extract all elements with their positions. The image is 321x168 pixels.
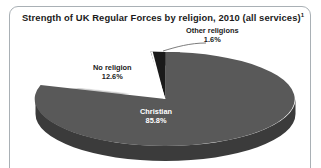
data-label-christian: Christian 85.8%	[140, 107, 172, 126]
data-label-other-religions-value: 1.6%	[186, 35, 239, 44]
pie-chart	[0, 0, 321, 168]
data-label-no-religion-name: No religion	[93, 63, 132, 72]
pie-chart-svg	[0, 0, 321, 168]
data-label-christian-value: 85.8%	[140, 116, 172, 125]
data-label-no-religion-value: 12.6%	[93, 72, 132, 81]
chart-figure: Strength of UK Regular Forces by religio…	[0, 0, 321, 168]
data-label-christian-name: Christian	[140, 107, 172, 116]
data-label-no-religion: No religion 12.6%	[93, 63, 132, 82]
data-label-other-religions-name: Other religions	[186, 26, 239, 35]
data-label-other-religions: Other religions 1.6%	[186, 26, 239, 45]
